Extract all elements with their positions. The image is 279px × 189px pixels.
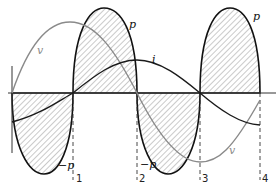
label-i: i <box>152 53 156 66</box>
tick-1: 1 <box>76 173 82 184</box>
label-neg-p-2: −p <box>140 158 156 171</box>
power-waveform-chart: v v i p p −p −p 1 2 3 4 <box>0 0 279 189</box>
chart-svg: v v i p p −p −p 1 2 3 4 <box>0 0 279 189</box>
label-neg-p-1: −p <box>58 159 74 172</box>
power-lobe-positive-2 <box>200 8 260 93</box>
label-p-1: p <box>129 18 136 31</box>
tick-3: 3 <box>202 173 208 184</box>
tick-2: 2 <box>139 173 145 184</box>
power-lobe-positive-1 <box>73 8 137 93</box>
tick-4: 4 <box>262 173 268 184</box>
label-v-left: v <box>37 44 44 57</box>
label-p-2: p <box>253 10 260 23</box>
label-v-right: v <box>229 144 236 157</box>
